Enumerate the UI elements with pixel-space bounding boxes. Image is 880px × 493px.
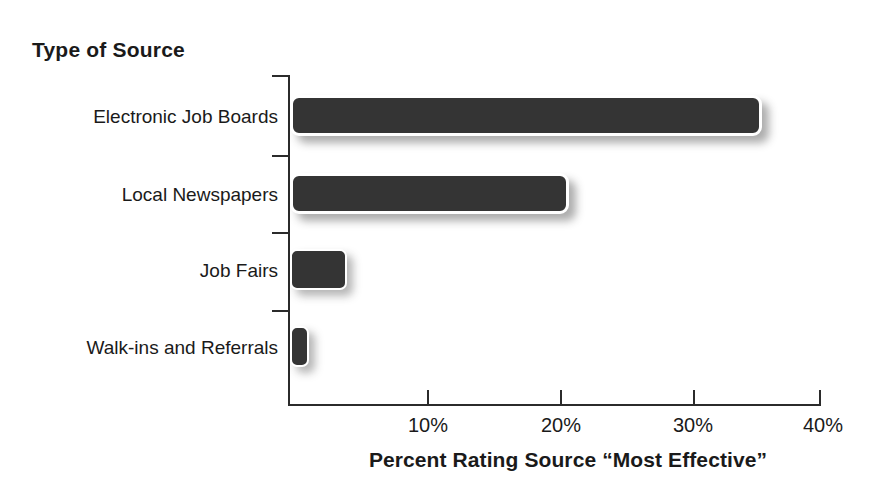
x-axis-tick — [693, 390, 695, 405]
x-axis-tick — [427, 390, 429, 405]
x-tick-label-20: 20% — [521, 414, 601, 437]
bar-fill — [290, 249, 347, 290]
x-tick-label-30: 30% — [653, 414, 733, 437]
bar-fill — [290, 173, 569, 214]
x-axis-tick — [819, 390, 821, 405]
bar-fill — [290, 326, 309, 367]
x-axis-line — [288, 404, 821, 406]
category-label-local-newspapers: Local Newspapers — [0, 184, 278, 206]
y-axis-tick — [272, 75, 288, 77]
y-axis-tick — [272, 310, 288, 312]
category-label-walk-ins-and-referrals: Walk-ins and Referrals — [0, 337, 278, 359]
bar-chart: Type of Source Electronic Job Boards Loc… — [0, 0, 880, 493]
x-tick-label-40: 40% — [783, 414, 863, 437]
category-label-electronic-job-boards: Electronic Job Boards — [0, 106, 278, 128]
x-axis-title: Percent Rating Source “Most Effective” — [288, 448, 848, 472]
category-label-job-fairs: Job Fairs — [0, 260, 278, 282]
x-axis-tick — [560, 390, 562, 405]
y-axis-title: Type of Source — [32, 38, 185, 62]
y-axis-tick — [272, 155, 288, 157]
y-axis-tick — [272, 232, 288, 234]
bar-fill — [290, 95, 762, 136]
x-tick-label-10: 10% — [388, 414, 468, 437]
